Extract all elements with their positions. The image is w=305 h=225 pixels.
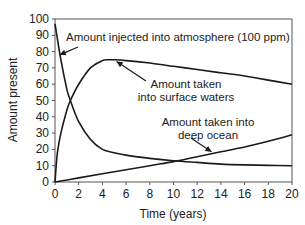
- atmosphere-label: Amount injected into atmosphere (100 ppm…: [66, 31, 290, 43]
- y-tick-label: 90: [36, 28, 50, 42]
- x-axis-title: Time (years): [140, 207, 207, 221]
- x-tick-label: 2: [75, 187, 82, 201]
- y-tick-label: 30: [36, 126, 50, 140]
- x-tick-label: 0: [52, 187, 59, 201]
- x-axis: 02468101214161820: [52, 182, 299, 201]
- y-tick-label: 20: [36, 142, 50, 156]
- y-tick-label: 80: [36, 45, 50, 59]
- deep-ocean-label: Amount taken intodeep ocean: [162, 116, 255, 141]
- y-axis-title: Amount present: [6, 57, 20, 142]
- y-tick-label: 70: [36, 61, 50, 75]
- x-tick-label: 14: [214, 187, 228, 201]
- x-tick-label: 4: [99, 187, 106, 201]
- surface-waters-label: Amount takeninto surface waters: [138, 78, 235, 103]
- x-tick-label: 8: [146, 187, 153, 201]
- chart: 0102030405060708090100 02468101214161820…: [0, 0, 305, 225]
- x-tick-label: 16: [238, 187, 252, 201]
- x-tick-label: 6: [123, 187, 130, 201]
- arrowhead-icon: [205, 146, 212, 152]
- x-tick-label: 20: [285, 187, 299, 201]
- x-tick-label: 18: [262, 187, 276, 201]
- y-tick-label: 50: [36, 94, 50, 108]
- y-tick-label: 0: [42, 175, 49, 189]
- deep-ocean-curve: [55, 135, 292, 182]
- y-axis: 0102030405060708090100: [29, 12, 55, 189]
- arrowhead-icon: [117, 61, 124, 67]
- x-tick-label: 12: [191, 187, 205, 201]
- y-tick-label: 60: [36, 77, 50, 91]
- annotations: Amount injected into atmosphere (100 ppm…: [60, 31, 290, 152]
- y-tick-label: 100: [29, 12, 49, 26]
- y-tick-label: 40: [36, 110, 50, 124]
- y-tick-label: 10: [36, 159, 50, 173]
- x-tick-label: 10: [167, 187, 181, 201]
